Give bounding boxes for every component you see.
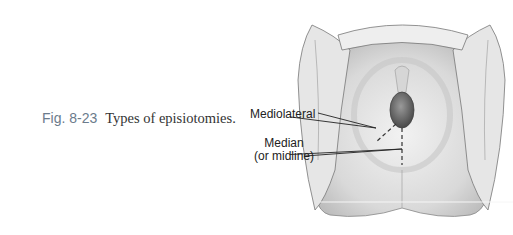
label-mediolateral: Mediolateral [250, 108, 315, 121]
label-median-line2: (or midline) [254, 150, 314, 163]
label-median: Median (or midline) [254, 137, 314, 163]
